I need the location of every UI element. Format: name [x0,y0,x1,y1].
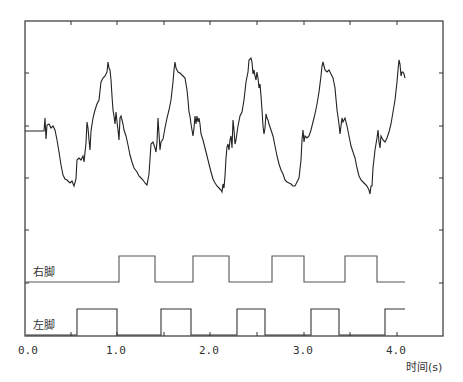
right-foot-signal [26,256,405,282]
x-tick-2: 2.0 [199,344,219,357]
x-tick-3: 3.0 [293,344,313,357]
left-foot-signal [26,309,405,335]
waveform-line [25,58,405,194]
x-tick-0: 0.0 [18,344,38,357]
gait-chart [0,0,463,382]
left-foot-label: 左脚 [33,316,55,332]
side-ticks [25,73,443,283]
x-tick-4: 4.0 [386,344,406,357]
x-tick-1: 1.0 [106,344,126,357]
right-foot-label: 右脚 [33,263,55,279]
x-axis-title: 时间(s) [406,358,442,374]
plot-frame [25,21,443,336]
